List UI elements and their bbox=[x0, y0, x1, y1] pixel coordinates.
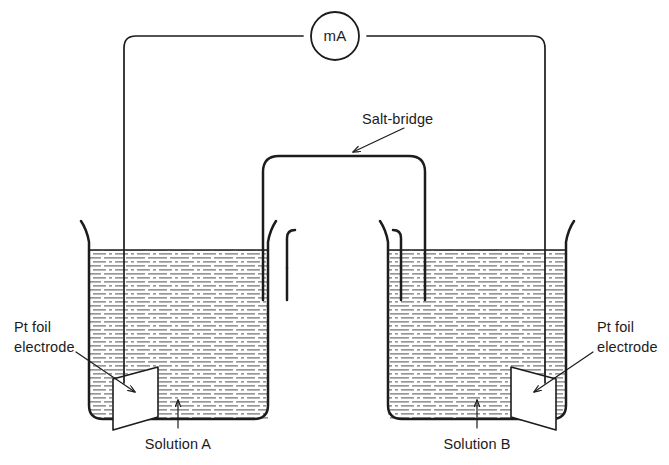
electrode-right bbox=[511, 367, 556, 430]
electrode-right-label-line2: electrode bbox=[597, 339, 658, 355]
salt-bridge bbox=[263, 156, 425, 300]
electrode-right-plate bbox=[511, 367, 556, 430]
meter-label: mA bbox=[324, 27, 347, 44]
solution-left-label: Solution A bbox=[145, 436, 212, 452]
electrode-left-label-line1: Pt foil bbox=[14, 319, 51, 335]
cell-diagram-canvas: mA Salt-bridge Pt foil electrode Pt foil bbox=[0, 0, 669, 465]
solution-right-label: Solution B bbox=[443, 436, 510, 452]
milliammeter: mA bbox=[311, 12, 359, 60]
salt-bridge-label: Salt-bridge bbox=[362, 111, 433, 127]
salt-bridge-leader bbox=[353, 128, 404, 152]
electrochemical-cell-diagram: mA Salt-bridge Pt foil electrode Pt foil bbox=[0, 0, 669, 465]
electrode-left-plate bbox=[113, 367, 158, 430]
electrode-right-label-line1: Pt foil bbox=[597, 319, 634, 335]
electrode-left-label-line2: electrode bbox=[14, 339, 75, 355]
electrode-left bbox=[113, 367, 158, 430]
